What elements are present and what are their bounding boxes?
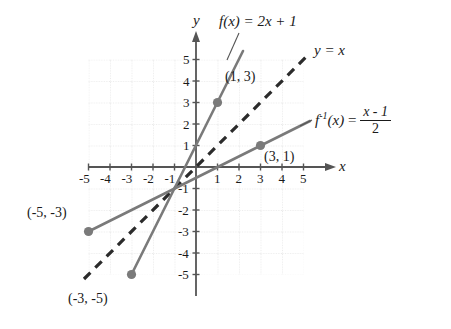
y-tick-4: 4 [183,75,190,88]
point-marker-neg5-neg3 [84,227,93,236]
y-tick-5: 5 [183,53,190,66]
leader-f-label [227,33,239,60]
point-label-neg5-neg3: (-5, -3) [27,206,67,220]
x-tick-5: 5 [300,172,307,185]
y-tick-neg1: -1 [178,182,189,195]
y-tick-2: 2 [183,118,190,131]
fraction-denominator: 2 [360,121,391,136]
point-label-1-3: (1, 3) [225,70,255,84]
y-tick-neg5: -5 [178,268,189,281]
x-tick-4: 4 [279,172,286,185]
x-tick-1: 1 [214,172,221,185]
function-label-f-inverse-equals: = [348,112,356,128]
function-label-f-inverse-arg: (x) [328,112,345,128]
function-label-f-inverse: f-1(x) = x - 1 2 [315,106,391,137]
y-tick-1: 1 [183,139,190,152]
function-label-f-arg: (x) [223,13,240,29]
point-marker-1-3 [213,98,222,107]
fraction-numerator: x - 1 [360,105,391,121]
y-tick-neg2: -2 [178,204,189,217]
x-tick-2: 2 [236,172,243,185]
x-tick-neg2: -2 [143,172,154,185]
function-label-f-expr: = 2x + 1 [244,13,297,29]
y-tick-neg3: -3 [178,225,189,238]
x-tick-neg1: -1 [165,172,176,185]
x-tick-neg3: -3 [122,172,133,185]
function-label-identity: y = x [314,43,345,58]
x-tick-neg5: -5 [79,172,90,185]
x-axis-label: x [339,159,346,174]
y-tick-3: 3 [183,96,190,109]
function-label-f-inverse-exponent: -1 [319,110,327,121]
y-tick-neg4: -4 [178,247,189,260]
x-tick-3: 3 [257,172,264,185]
function-label-f: f(x) = 2x + 1 [219,14,297,29]
y-axis-label: y [193,13,200,28]
fraction-x-minus-1-over-2: x - 1 2 [360,105,391,136]
graph-figure [0,0,451,329]
x-tick-neg4: -4 [100,172,111,185]
point-label-neg3-neg5: (-3, -5) [68,292,108,306]
point-marker-neg3-neg5 [127,270,136,279]
point-label-3-1: (3, 1) [264,150,294,164]
